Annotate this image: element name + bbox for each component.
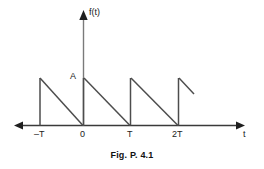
x-tick-label-two-t: 2T xyxy=(172,130,183,139)
figure-container: f(t) A –T 0 T 2T t Fig. P. 4.1 xyxy=(0,0,264,169)
x-tick-label-zero: 0 xyxy=(80,130,85,139)
y-axis-arrowhead xyxy=(79,10,87,20)
waveform-ramp-2T-partial xyxy=(179,78,194,94)
waveform-ramp-0-to-T xyxy=(84,78,130,126)
waveform-ramp-negT-to-0 xyxy=(40,78,83,126)
sawtooth-waveform-plot xyxy=(0,0,264,169)
figure-caption: Fig. P. 4.1 xyxy=(0,150,264,160)
x-axis-label: t xyxy=(243,130,246,139)
y-axis-label: f(t) xyxy=(89,8,100,17)
amplitude-label: A xyxy=(70,72,76,81)
x-tick-label-neg-t: –T xyxy=(34,130,45,139)
x-axis-left-arrowhead xyxy=(14,122,23,130)
waveform-ramp-T-to-2T xyxy=(131,78,178,126)
x-tick-label-t: T xyxy=(127,130,133,139)
waveform-group xyxy=(40,78,194,126)
